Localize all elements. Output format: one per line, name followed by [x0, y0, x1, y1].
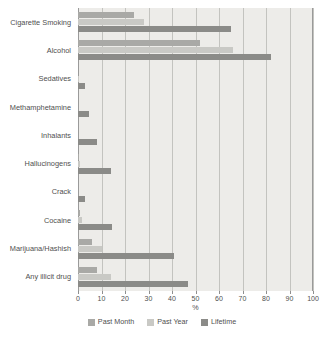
bar-group: [78, 65, 312, 93]
bar: [78, 111, 89, 117]
bar-group: [78, 8, 312, 36]
bar: [78, 168, 111, 174]
bar: [78, 26, 231, 32]
bar: [78, 253, 174, 259]
bar: [78, 83, 85, 89]
bar-groups: [78, 8, 312, 291]
bar: [78, 196, 85, 202]
bar: [78, 281, 188, 287]
category-label: Inhalants: [41, 131, 71, 140]
legend-label: Lifetime: [211, 318, 236, 326]
x-tick-mark: [149, 291, 150, 294]
x-tick-mark: [313, 291, 314, 294]
bar-group: [78, 121, 312, 149]
bar: [78, 19, 144, 25]
bar-group: [78, 234, 312, 262]
category-label: Cocaine: [44, 216, 71, 225]
category-label: Methamphetamine: [10, 103, 71, 112]
category-label: Cigarette Smoking: [10, 18, 71, 27]
bar: [78, 76, 79, 82]
x-tick-mark: [102, 291, 103, 294]
legend-item[interactable]: Lifetime: [201, 318, 236, 326]
x-tick-mark: [78, 291, 79, 294]
category-label: Alcohol: [47, 46, 71, 55]
chart-legend: Past MonthPast YearLifetime: [0, 318, 324, 326]
x-tick-label: 10: [98, 295, 106, 303]
bar: [78, 12, 134, 18]
legend-label: Past Year: [157, 318, 188, 326]
legend-swatch-icon: [147, 319, 154, 326]
category-label: Sedatives: [39, 74, 71, 83]
x-tick-mark: [125, 291, 126, 294]
bar: [78, 54, 271, 60]
x-tick-label: 70: [239, 295, 247, 303]
x-tick-mark: [243, 291, 244, 294]
x-tick-mark: [290, 291, 291, 294]
category-label: Marijuana/Hashish: [10, 244, 71, 253]
legend-item[interactable]: Past Year: [147, 318, 188, 326]
category-label: Any illicit drug: [25, 272, 71, 281]
bar-group: [78, 206, 312, 234]
bar: [78, 40, 200, 46]
category-label: Hallucinogens: [25, 159, 71, 168]
bar-group: [78, 150, 312, 178]
legend-swatch-icon: [88, 319, 95, 326]
bar: [78, 210, 80, 216]
x-tick-label: 90: [286, 295, 294, 303]
x-tick-label: 40: [168, 295, 176, 303]
x-tick-label: 100: [307, 295, 319, 303]
legend-item[interactable]: Past Month: [88, 318, 134, 326]
x-tick-mark: [196, 291, 197, 294]
x-tick-mark: [219, 291, 220, 294]
gridline: [313, 8, 314, 291]
bar-group: [78, 36, 312, 64]
bar-group: [78, 178, 312, 206]
x-axis-title: %: [78, 303, 313, 312]
bar: [78, 47, 233, 53]
x-tick-mark: [266, 291, 267, 294]
x-tick-label: 30: [145, 295, 153, 303]
legend-swatch-icon: [201, 319, 208, 326]
bar: [78, 246, 102, 252]
x-tick-label: 0: [76, 295, 80, 303]
plot-area: [78, 8, 313, 291]
bar: [78, 274, 111, 280]
bar: [78, 239, 92, 245]
x-tick-mark: [172, 291, 173, 294]
x-tick-label: 50: [192, 295, 200, 303]
x-tick-label: 20: [121, 295, 129, 303]
x-tick-label: 80: [262, 295, 270, 303]
bar: [78, 161, 80, 167]
bar: [78, 154, 79, 160]
bar: [78, 217, 82, 223]
legend-label: Past Month: [98, 318, 134, 326]
bar: [78, 267, 97, 273]
bar-group: [78, 263, 312, 291]
x-tick-label: 60: [215, 295, 223, 303]
category-axis-labels: Cigarette SmokingAlcoholSedativesMethamp…: [0, 8, 74, 291]
bar: [78, 224, 112, 230]
category-label: Crack: [52, 187, 71, 196]
bar: [78, 139, 97, 145]
bar-group: [78, 93, 312, 121]
bar-chart: Cigarette SmokingAlcoholSedativesMethamp…: [0, 0, 324, 341]
